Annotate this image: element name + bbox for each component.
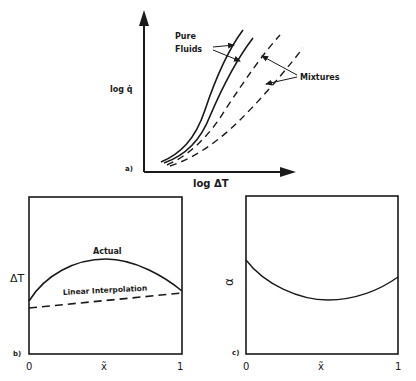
actual-label: Actual xyxy=(93,247,122,256)
pure-arrow-1 xyxy=(213,45,234,47)
c-xmid: x̃ xyxy=(318,361,324,372)
b-panel-label: b) xyxy=(13,350,21,358)
alpha-curve xyxy=(246,260,398,300)
panel-b: Actual Linear Interpolation ΔT b) 0 x̃ 1 xyxy=(10,197,183,372)
a-xlabel: log ΔT xyxy=(193,178,229,189)
linear-label: Linear Interpolation xyxy=(63,284,148,297)
b-x0: 0 xyxy=(26,361,32,372)
y-axis-arrow-icon xyxy=(139,10,149,26)
x-axis-arrow-icon xyxy=(280,167,296,177)
c-x1: 1 xyxy=(395,361,401,372)
pure-label-2: Fluids xyxy=(175,45,202,54)
mixture-arrow-2 xyxy=(266,77,297,84)
figure: Pure Fluids Mixtures log q̇ log ΔT a) Ac… xyxy=(0,0,416,381)
linear-interpolation-line xyxy=(29,293,182,308)
panel-a: Pure Fluids Mixtures log q̇ log ΔT a) xyxy=(110,10,340,189)
b-xmid: x̃ xyxy=(101,361,107,372)
panel-c: α c) 0 x̃ 1 xyxy=(222,196,401,372)
a-panel-label: a) xyxy=(125,165,133,173)
pure-arrow-2 xyxy=(213,50,240,61)
c-x0: 0 xyxy=(243,361,249,372)
c-panel-label: c) xyxy=(232,349,239,357)
b-ylabel: ΔT xyxy=(10,272,25,285)
c-ylabel: α xyxy=(222,278,236,286)
pure-label-1: Pure xyxy=(175,32,197,41)
a-ylabel: log q̇ xyxy=(110,84,133,94)
mixtures-label: Mixtures xyxy=(300,73,340,82)
mixture-arrow-1 xyxy=(262,56,297,75)
b-x1: 1 xyxy=(177,361,183,372)
c-frame xyxy=(246,196,398,354)
